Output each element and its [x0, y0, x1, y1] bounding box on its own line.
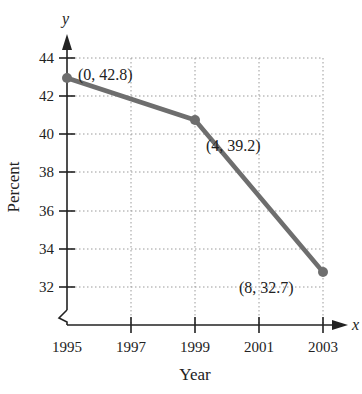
axis-break [59, 310, 67, 325]
svg-text:1995: 1995 [52, 339, 82, 355]
svg-text:1999: 1999 [180, 339, 210, 355]
x-axis-var: x [351, 316, 359, 333]
svg-text:38: 38 [39, 164, 54, 180]
y-axis-var: y [60, 10, 70, 28]
svg-text:40: 40 [39, 126, 54, 142]
line-chart: y x 44 42 40 38 36 34 32 1995 1997 1999 … [0, 0, 362, 394]
svg-text:1997: 1997 [116, 339, 147, 355]
data-point [318, 267, 328, 277]
y-tick-labels: 44 42 40 38 36 34 32 [39, 50, 55, 295]
x-axis-title: Year [179, 365, 211, 384]
y-axis-arrow [62, 34, 72, 50]
svg-text:44: 44 [39, 50, 55, 66]
x-axis-arrow [332, 320, 348, 330]
svg-text:42: 42 [39, 88, 54, 104]
data-point [190, 115, 200, 125]
svg-text:34: 34 [39, 241, 55, 257]
point-labels: (0, 42.8) (4, 39.2) (8, 32.7) [78, 66, 294, 297]
svg-text:(8, 32.7): (8, 32.7) [239, 279, 294, 297]
svg-text:36: 36 [39, 203, 55, 219]
svg-text:2003: 2003 [308, 339, 338, 355]
data-point [62, 73, 72, 83]
svg-text:(0, 42.8): (0, 42.8) [78, 66, 133, 84]
svg-text:2001: 2001 [244, 339, 274, 355]
svg-text:32: 32 [39, 279, 54, 295]
x-tick-labels: 1995 1997 1999 2001 2003 [52, 339, 338, 355]
svg-text:(4, 39.2): (4, 39.2) [206, 137, 261, 155]
y-axis-title: Percent [4, 161, 23, 212]
